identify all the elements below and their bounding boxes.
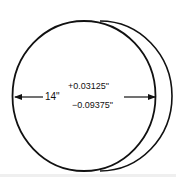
nominal-diameter-label: 14" bbox=[45, 92, 60, 102]
disk-outline bbox=[13, 21, 156, 171]
minus-tolerance-label: −0.09375" bbox=[72, 101, 113, 110]
bottom-divider bbox=[0, 174, 176, 177]
plus-tolerance-label: +0.03125" bbox=[68, 82, 109, 91]
disk-diagram: 14" +0.03125" −0.09375" bbox=[0, 0, 176, 177]
